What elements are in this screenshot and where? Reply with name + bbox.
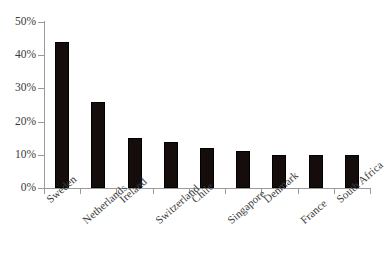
y-axis-tick-label-text: 10%: [0, 149, 36, 161]
y-axis-tick-label: 20%: [0, 116, 36, 128]
y-axis-tick-label-text: 50%: [0, 16, 36, 28]
x-axis-label-france: France: [298, 197, 329, 226]
bar: [55, 42, 69, 188]
y-axis-tick-label-text: 30%: [0, 82, 36, 94]
y-axis-tick-label: 30%: [0, 82, 36, 94]
x-axis-label-singapore: Singapore: [225, 187, 267, 226]
bar: [91, 102, 105, 188]
x-axis-tick: [298, 189, 299, 194]
x-axis-tick: [153, 189, 154, 194]
y-axis-tick-label-text: 20%: [0, 116, 36, 128]
x-axis-tick: [80, 189, 81, 194]
y-axis-tick-label: 10%: [0, 149, 36, 161]
x-axis-tick: [225, 189, 226, 194]
bar-chart: 0%10%20%30%40%50% SwedenNetherlandsIrela…: [0, 0, 392, 267]
bars-group: [44, 22, 370, 188]
x-axis-tick: [44, 189, 45, 194]
y-axis-tick-label: 50%: [0, 16, 36, 28]
x-axis-tick: [334, 189, 335, 194]
y-axis-tick-label: 40%: [0, 49, 36, 61]
y-axis-tick-label-text: 0%: [0, 182, 36, 194]
bar: [164, 142, 178, 188]
y-axis-tick-label-text: 40%: [0, 49, 36, 61]
bar: [236, 151, 250, 188]
bar: [309, 155, 323, 188]
y-axis-tick-label: 0%: [0, 182, 36, 194]
x-axis-tick: [370, 189, 371, 194]
